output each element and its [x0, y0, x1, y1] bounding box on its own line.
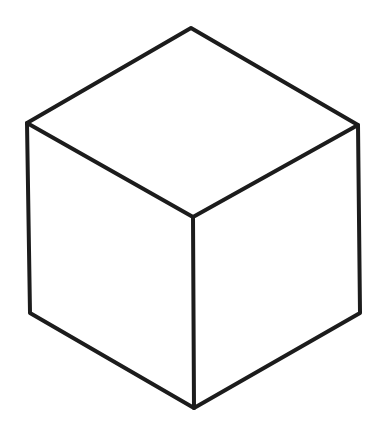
- cube-drawing: [0, 0, 381, 432]
- cube-edge-right-center: [193, 125, 358, 217]
- cube-diagram-canvas: [0, 0, 381, 432]
- cube-edge-left-center: [27, 123, 193, 217]
- cube-edge-center-bottom: [193, 217, 194, 408]
